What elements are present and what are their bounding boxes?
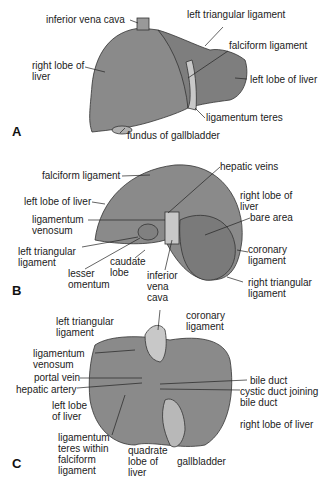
liver-visceral-view [89,325,232,446]
label-coronary-c: coronary ligament [186,310,225,332]
label-left-lobe: left lobe of liver [250,74,317,85]
label-coronary-b: coronary ligament [248,244,287,266]
label-left-triangular-b: left triangular ligament [18,246,76,268]
label-ligamentum-teres: ligamentum teres [206,112,283,123]
label-ligamentum-venosum-c: ligamentum venosum [33,348,85,370]
label-left-lobe-c: left lobe of liver [52,400,87,422]
label-gallbladder: gallbladder [177,456,226,467]
label-inferior-vena-cava: inferior vena cava [46,14,125,25]
label-right-lobe-c: right lobe of liver [240,419,313,430]
label-left-triangular-c: left triangular ligament [56,316,114,338]
label-left-lobe-b: left lobe of liver [24,196,91,207]
label-right-triangular: right triangular ligament [248,277,312,299]
label-right-lobe-b: right lobe of liver [240,190,292,212]
label-cystic-duct: cystic duct joining bile duct [240,386,318,408]
label-ligamentum-venosum-b: ligamentum venosum [32,214,84,236]
label-portal-vein: portal vein [34,372,80,383]
label-bile-duct: bile duct [250,375,287,386]
label-ligamentum-teres-c: ligamentum teres within falciform ligame… [58,432,110,476]
label-caudate-lobe: caudate lobe [110,256,146,278]
panel-letter-b: B [12,283,21,298]
label-fundus-gallbladder: fundus of gallbladder [127,130,220,141]
label-hepatic-artery: hepatic artery [16,384,77,395]
panel-letter-a: A [12,124,21,139]
label-ivc-b: inferior vena cava [147,270,178,303]
label-bare-area: bare area [250,212,293,223]
label-hepatic-veins: hepatic veins [220,161,278,172]
label-falciform-ligament-b: falciform ligament [42,170,120,181]
label-lesser-omentum: lesser omentum [68,268,110,290]
panel-letter-c: C [12,456,21,471]
label-quadrate-lobe: quadrate lobe of liver [128,445,167,478]
label-right-lobe: right lobe of liver [32,60,84,82]
label-falciform-ligament: falciform ligament [229,40,307,51]
label-left-triangular-ligament: left triangular ligament [187,9,285,20]
